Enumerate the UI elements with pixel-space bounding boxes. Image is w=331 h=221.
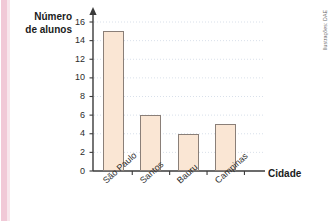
plot-svg	[0, 0, 331, 221]
y-axis-tick-label: 10	[67, 73, 85, 82]
y-axis-arrowhead	[89, 7, 96, 15]
plot-area: 0246810121416São PauloSantosBauruCampina…	[0, 0, 331, 221]
y-axis-tick-label: 14	[67, 36, 85, 45]
bar-são-paulo	[103, 31, 124, 171]
chart-figure: Ilustrações: DAE Número de alunos Cidade…	[0, 0, 331, 221]
y-axis-tick-label: 6	[67, 111, 85, 120]
y-axis-tick-label: 12	[67, 55, 85, 64]
y-axis-tick-label: 2	[67, 148, 85, 157]
y-axis-tick-label: 16	[67, 18, 85, 27]
y-axis-tick-label: 4	[67, 129, 85, 138]
y-axis-tick-label: 8	[67, 92, 85, 101]
y-axis-tick-label: 0	[67, 167, 85, 176]
